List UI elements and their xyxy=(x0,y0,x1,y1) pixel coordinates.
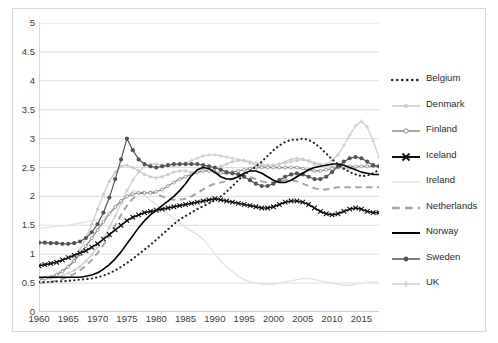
y-axis-tick-labels: 00.511.522.533.544.55 xyxy=(13,23,35,312)
x-tick-label: 1985 xyxy=(175,314,196,324)
legend-item-label: Netherlands xyxy=(426,201,477,211)
legend-swatch-icon xyxy=(391,251,421,263)
legend-item-label: Belgium xyxy=(426,73,460,83)
legend-swatch-icon xyxy=(391,98,421,110)
legend-swatch-icon xyxy=(391,149,421,161)
legend-item-ireland[interactable]: Ireland xyxy=(391,173,455,187)
legend-item-label: UK xyxy=(426,277,439,287)
chart-figure: 00.511.522.533.544.55 196019651970197519… xyxy=(12,8,486,332)
plot-wrapper: 00.511.522.533.544.55 196019651970197519… xyxy=(13,9,487,333)
legend-item-label: Iceland xyxy=(426,150,457,160)
legend-item-norway[interactable]: Norway xyxy=(391,224,458,238)
x-tick-label: 1965 xyxy=(58,314,79,324)
legend-item-label: Sweden xyxy=(426,252,460,262)
x-tick-label: 2000 xyxy=(263,314,284,324)
plot-area xyxy=(39,23,379,312)
legend-item-belgium[interactable]: Belgium xyxy=(391,71,460,85)
y-tick-label: 5 xyxy=(11,18,35,28)
x-tick-label: 1995 xyxy=(234,314,255,324)
legend-item-uk[interactable]: UK xyxy=(391,275,439,289)
legend-swatch-icon xyxy=(391,276,421,288)
y-tick-label: 0.5 xyxy=(11,278,35,288)
x-axis-tick-labels: 1960196519701975198019851990199520002005… xyxy=(39,314,379,330)
y-tick-label: 3 xyxy=(11,134,35,144)
y-tick-label: 4.5 xyxy=(11,47,35,57)
legend-item-netherlands[interactable]: Netherlands xyxy=(391,199,477,213)
legend-item-label: Norway xyxy=(426,226,458,236)
x-tick-label: 1980 xyxy=(146,314,167,324)
x-tick-label: 2010 xyxy=(322,314,343,324)
legend-swatch-icon xyxy=(391,72,421,84)
legend-swatch-icon xyxy=(391,123,421,135)
legend-item-label: Denmark xyxy=(426,99,465,109)
x-tick-label: 1975 xyxy=(116,314,137,324)
y-tick-label: 2.5 xyxy=(11,163,35,173)
y-tick-label: 3.5 xyxy=(11,105,35,115)
legend-item-label: Ireland xyxy=(426,175,455,185)
x-tick-label: 1960 xyxy=(28,314,49,324)
series-finland xyxy=(39,165,379,281)
y-tick-label: 4 xyxy=(11,76,35,86)
x-tick-label: 2015 xyxy=(351,314,372,324)
legend-item-denmark[interactable]: Denmark xyxy=(391,97,465,111)
legend-item-finland[interactable]: Finland xyxy=(391,122,457,136)
line-chart-svg xyxy=(39,23,379,312)
legend-swatch-icon xyxy=(391,200,421,212)
y-tick-label: 2 xyxy=(11,192,35,202)
x-tick-label: 1990 xyxy=(204,314,225,324)
chart-legend: BelgiumDenmarkFinlandIcelandIrelandNethe… xyxy=(391,71,487,301)
legend-item-iceland[interactable]: Iceland xyxy=(391,148,457,162)
legend-item-label: Finland xyxy=(426,124,457,134)
x-tick-label: 2005 xyxy=(292,314,313,324)
legend-swatch-icon xyxy=(391,225,421,237)
x-tick-label: 1970 xyxy=(87,314,108,324)
y-tick-label: 1 xyxy=(11,249,35,259)
y-tick-label: 1.5 xyxy=(11,221,35,231)
legend-swatch-icon xyxy=(391,174,421,186)
legend-item-sweden[interactable]: Sweden xyxy=(391,250,460,264)
